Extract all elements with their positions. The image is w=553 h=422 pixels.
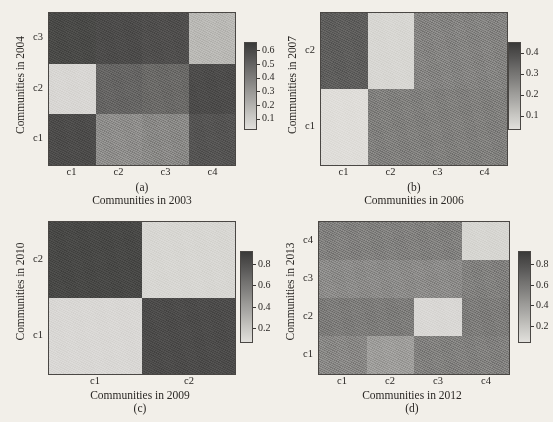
panel-a: Communities in 2004 c3c2c1 c1c2c3c4 (a) … (0, 0, 272, 211)
heatmap-cell (49, 114, 96, 165)
panel-c-heatmap[interactable] (48, 221, 236, 375)
heatmap-cell (49, 298, 142, 374)
heatmap-cell (462, 260, 510, 298)
panel-c-y-axis-title: Communities in 2010 (14, 214, 28, 369)
colorbar-tick-label: 0.8 (531, 259, 549, 269)
panel-a-letter: (a) (48, 181, 236, 194)
panel-b-heatmap[interactable] (320, 12, 508, 166)
panel-d-letter: (d) (312, 402, 512, 415)
panel-b-x-axis-title: Communities in 2006 (320, 194, 508, 207)
heatmap-cell (414, 260, 462, 298)
panel-b-colorbar: 0.10.20.30.4 (508, 42, 553, 128)
colorbar-tick-label: 0.8 (253, 259, 271, 269)
heatmap-cell (414, 13, 461, 89)
panel-b-caption: (b) Communities in 2006 (320, 181, 508, 207)
colorbar-tick-label: 0.4 (253, 302, 271, 312)
heatmap-cell (319, 222, 367, 260)
panel-a-y-tick-labels: c3c2c1 (28, 12, 46, 164)
x-tick-label: c4 (462, 376, 510, 387)
y-tick-label: c1 (33, 133, 43, 144)
heatmap-cell (189, 64, 236, 115)
panel-c-letter: (c) (40, 402, 240, 415)
heatmap-cell (367, 260, 415, 298)
colorbar-tick-label: 0.4 (521, 47, 539, 57)
heatmap-cell (414, 89, 461, 165)
colorbar-tick-label: 0.2 (521, 89, 539, 99)
heatmap-cell (96, 13, 143, 64)
heatmap-cell (189, 114, 236, 165)
x-tick-label: c2 (95, 167, 142, 178)
heatmap-cell (142, 64, 189, 115)
panel-d: Communities in 2013 c4c3c2c1 c1c2c3c4 Co… (272, 211, 544, 422)
x-tick-label: c1 (318, 376, 366, 387)
x-tick-label: c1 (48, 376, 142, 387)
x-tick-label: c2 (142, 376, 236, 387)
heatmap-cell (321, 13, 368, 89)
heatmap-cell (462, 222, 510, 260)
panel-c-caption: Communities in 2009 (c) (40, 389, 240, 415)
panel-b-y-tick-labels: c2c1 (300, 12, 318, 164)
panel-d-y-axis-title: Communities in 2013 (284, 214, 298, 369)
heatmap-cell (461, 89, 508, 165)
y-tick-label: c4 (303, 235, 313, 246)
panel-a-x-axis-title: Communities in 2003 (48, 194, 236, 207)
heatmap-cell (319, 298, 367, 336)
colorbar-tick-label: 0.3 (521, 68, 539, 78)
colorbar-tick-label: 0.1 (521, 110, 539, 120)
panel-c-y-tick-labels: c2c1 (28, 221, 46, 373)
heatmap-cell (414, 222, 462, 260)
x-tick-label: c3 (414, 376, 462, 387)
heatmap-cell (461, 13, 508, 89)
y-tick-label: c2 (33, 83, 43, 94)
heatmap-cell (49, 64, 96, 115)
heatmap-cell (462, 298, 510, 336)
colorbar-tick-label: 0.6 (253, 280, 271, 290)
heatmap-cell (49, 222, 142, 298)
x-tick-label: c3 (414, 167, 461, 178)
heatmap-cell (142, 13, 189, 64)
x-tick-label: c4 (189, 167, 236, 178)
colorbar-tick-label: 0.2 (253, 323, 271, 333)
heatmap-cell (96, 64, 143, 115)
y-tick-label: c1 (33, 330, 43, 341)
heatmap-cell (414, 298, 462, 336)
heatmap-cell (367, 336, 415, 374)
heatmap-cell (367, 298, 415, 336)
panel-d-x-axis-title: Communities in 2012 (312, 389, 512, 402)
colorbar-tick-label: 0.6 (531, 280, 549, 290)
x-tick-label: c3 (142, 167, 189, 178)
panel-d-x-tick-labels: c1c2c3c4 (318, 376, 510, 387)
y-tick-label: c3 (33, 32, 43, 43)
heatmap-cell (96, 114, 143, 165)
x-tick-label: c2 (366, 376, 414, 387)
y-tick-label: c1 (303, 349, 313, 360)
heatmap-cell (462, 336, 510, 374)
panel-d-heatmap[interactable] (318, 221, 510, 375)
panel-c: Communities in 2010 c2c1 c1c2 Communitie… (0, 211, 272, 422)
heatmap-cell (142, 222, 235, 298)
panel-a-caption: (a) Communities in 2003 (48, 181, 236, 207)
heatmap-cell (319, 260, 367, 298)
x-tick-label: c2 (367, 167, 414, 178)
panel-d-colorbar: 0.20.40.60.8 (518, 251, 553, 341)
panel-a-y-axis-title: Communities in 2004 (14, 10, 28, 160)
panel-b: Communities in 2007 c2c1 c1c2c3c4 (b) Co… (272, 0, 544, 211)
x-tick-label: c1 (320, 167, 367, 178)
x-tick-label: c1 (48, 167, 95, 178)
heatmap-cell (368, 13, 415, 89)
panel-b-y-axis-title: Communities in 2007 (286, 10, 300, 160)
heatmap-cell (142, 298, 235, 374)
panel-a-heatmap[interactable] (48, 12, 236, 166)
heatmap-cell (142, 114, 189, 165)
y-tick-label: c2 (33, 254, 43, 265)
y-tick-label: c2 (303, 311, 313, 322)
y-tick-label: c1 (305, 121, 315, 132)
colorbar-tick-label: 0.4 (531, 300, 549, 310)
y-tick-label: c3 (303, 273, 313, 284)
panel-b-letter: (b) (320, 181, 508, 194)
heatmap-cell (189, 13, 236, 64)
heatmap-cell (49, 13, 96, 64)
heatmap-cell (367, 222, 415, 260)
heatmap-cell (414, 336, 462, 374)
